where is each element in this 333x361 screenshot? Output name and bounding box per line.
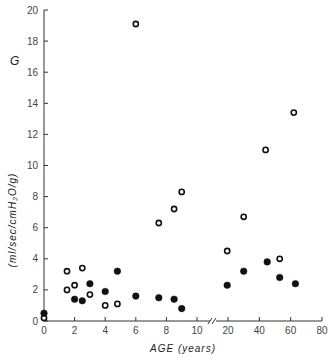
open-data-point (291, 110, 296, 115)
scatter-chart: 24681012141618200 024681020406080 G (ml/… (0, 0, 333, 361)
open-data-point (133, 21, 138, 26)
y-tick-label: 16 (27, 67, 39, 78)
open-data-point (225, 248, 230, 253)
x-tick-label: 6 (133, 325, 139, 336)
y-axis-title: (ml/sec/cmH₂O/g) (7, 173, 18, 268)
x-tick-label: 10 (191, 325, 203, 336)
open-data-point (72, 283, 77, 288)
x-tick-label: 40 (254, 325, 266, 336)
x-tick-label: 20 (222, 325, 234, 336)
y-tick-label: 8 (32, 191, 38, 202)
filled-data-point (114, 268, 121, 275)
filled-data-point (264, 259, 271, 266)
y-tick-label: 14 (27, 98, 39, 109)
open-data-point (179, 189, 184, 194)
open-data-point (156, 220, 161, 225)
x-tick-label: 60 (285, 325, 297, 336)
y-tick-label: 18 (27, 36, 39, 47)
filled-data-point (133, 293, 140, 300)
filled-data-point (276, 274, 283, 281)
open-data-point (277, 256, 282, 261)
filled-data-point (102, 288, 109, 295)
data-points (41, 21, 299, 320)
filled-data-point (171, 296, 178, 303)
open-data-point (64, 287, 69, 292)
x-tick-label: 0 (41, 325, 47, 336)
axis-break-mark (212, 318, 216, 324)
x-tick-label: 80 (316, 325, 328, 336)
filled-data-point (292, 280, 299, 287)
open-data-point (241, 214, 246, 219)
y-axis: 24681012141618200 (27, 5, 48, 328)
filled-data-point (41, 310, 48, 317)
y-tick-label: 10 (27, 160, 39, 171)
open-data-point (87, 292, 92, 297)
filled-data-point (71, 296, 78, 303)
filled-data-point (240, 268, 247, 275)
filled-data-point (224, 282, 231, 289)
open-data-point (263, 147, 268, 152)
y-tick-label: 12 (27, 129, 39, 140)
filled-data-point (87, 280, 94, 287)
filled-data-point (79, 298, 86, 305)
open-data-point (80, 266, 85, 271)
y-tick-label: 20 (27, 5, 39, 16)
open-data-point (103, 303, 108, 308)
x-tick-label: 2 (72, 325, 78, 336)
y-tick-label: 2 (32, 284, 38, 295)
x-tick-label: 4 (102, 325, 108, 336)
y-tick-label: 4 (32, 253, 38, 264)
filled-data-point (178, 305, 185, 312)
x-axis: 024681020406080 (41, 317, 328, 336)
open-data-point (172, 206, 177, 211)
filled-data-point (156, 294, 163, 301)
x-axis-title: AGE (years) (149, 343, 216, 354)
y-axis-symbol-g: G (10, 54, 19, 68)
y-tick-label: 6 (32, 222, 38, 233)
open-data-point (64, 269, 69, 274)
open-data-point (115, 301, 120, 306)
y-origin-label: 0 (32, 316, 38, 327)
x-tick-label: 8 (164, 325, 170, 336)
